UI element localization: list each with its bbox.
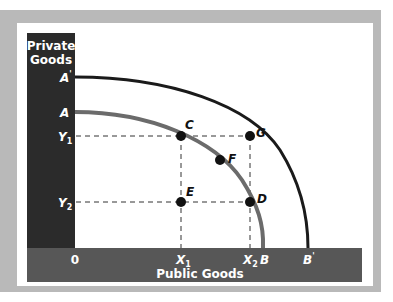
curve-a-prime-b-prime [75,77,308,248]
x-axis-title: Public Goods [156,267,244,281]
ppf-chart: Private Goods A' A Y1 Y2 0 X1 X2 B B' Pu… [0,0,393,302]
point-d [245,197,255,207]
point-g [245,131,255,141]
point-label-g: G [256,126,266,140]
y-axis-title-line1: Private [27,39,76,53]
point-label-d: D [257,192,267,206]
point-label-f: F [228,152,237,166]
y-tick-a: A [59,106,69,120]
y-axis-title-line2: Goods [30,53,72,67]
point-label-c: C [185,118,194,132]
point-f [215,155,225,165]
point-label-e: E [186,185,195,199]
dashed-guides [76,136,250,248]
point-c [176,131,186,141]
origin-label: 0 [71,253,79,267]
curve-ab [75,112,263,248]
point-e [176,197,186,207]
x-tick-b: B [260,253,269,267]
